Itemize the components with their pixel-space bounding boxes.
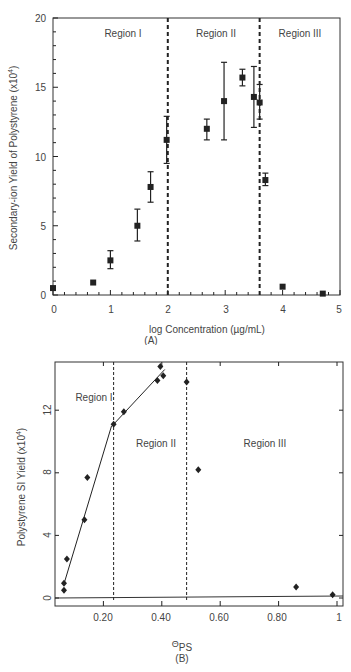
region-label-2: Region II <box>136 438 176 449</box>
y-axis-label-text: Polystyrene SI Yield (x10 <box>16 435 27 547</box>
y-tick-label: 20 <box>35 13 47 24</box>
data-point-diamond <box>84 474 90 481</box>
data-point-square <box>262 177 268 183</box>
x-tick-label: 0 <box>51 304 57 315</box>
region-label-3: Region III <box>244 438 287 449</box>
region-boundaries-b <box>114 362 187 600</box>
data-point-diamond <box>121 408 127 415</box>
region-label-2: Region II <box>196 28 236 39</box>
x-axis-label: ΘPS <box>172 639 193 653</box>
data-point-square <box>148 184 154 190</box>
y-tick-label: 8 <box>42 469 53 475</box>
y-axis-label-end: ) <box>8 66 19 69</box>
data-point-diamond <box>330 591 336 598</box>
region-label-3: Region III <box>279 28 322 39</box>
data-points-a <box>50 62 326 296</box>
fit-line <box>64 426 112 584</box>
axis-ticks-a <box>53 18 340 295</box>
data-point-square <box>251 94 257 100</box>
data-point-square <box>257 99 263 105</box>
data-point-diamond <box>61 580 67 587</box>
data-point-square <box>50 285 56 291</box>
data-point-square <box>107 257 113 263</box>
x-axis-label-sub: PS <box>179 642 193 653</box>
data-point-square <box>221 98 227 104</box>
y-tick-label: 10 <box>35 152 47 163</box>
data-point-square <box>320 291 326 297</box>
region-boundaries-a <box>168 18 260 295</box>
y-axis-label: Polystyrene SI Yield (x104) <box>15 428 27 546</box>
plot-frame-a <box>53 18 340 295</box>
y-axis-label-end: ) <box>16 428 27 431</box>
x-tick-label: 1 <box>336 612 342 623</box>
data-point-diamond <box>61 587 67 594</box>
panel-label: (A) <box>144 335 157 345</box>
data-point-square <box>164 137 170 143</box>
data-point-square <box>204 126 210 132</box>
y-tick-label: 5 <box>40 221 46 232</box>
zero-baseline-b <box>55 596 343 598</box>
x-axis-label: log Concentration (µg/mL) <box>149 324 265 335</box>
data-point-square <box>280 284 286 290</box>
y-axis-label-text: Secondary-ion Yield of Polystyrene (x10 <box>8 73 19 251</box>
x-tick-label: 2 <box>165 304 171 315</box>
data-point-diamond <box>154 377 160 384</box>
x-tick-label: 0.40 <box>151 612 171 623</box>
x-tick-label: 0.20 <box>93 612 113 623</box>
x-tick-label: 4 <box>280 304 286 315</box>
y-tick-label: 0 <box>42 595 53 601</box>
y-tick-label: 15 <box>35 82 47 93</box>
data-point-diamond <box>184 379 190 386</box>
x-tick-label: 3 <box>223 304 229 315</box>
y-tick-label: 4 <box>42 532 53 538</box>
data-point-square <box>134 223 140 229</box>
data-point-square <box>239 75 245 81</box>
region-label-1: Region I <box>75 392 112 403</box>
y-tick-label: 12 <box>42 404 53 416</box>
data-point-square <box>90 280 96 286</box>
data-point-diamond <box>157 363 163 370</box>
chart-a: 0 5 10 15 20 0 1 2 3 4 5 Region I Region… <box>0 0 351 345</box>
x-axis-label-theta: Θ <box>172 639 179 649</box>
data-point-diamond <box>64 555 70 562</box>
region-label-1: Region I <box>104 28 141 39</box>
x-tick-label: 0.80 <box>267 612 287 623</box>
data-point-diamond <box>293 584 299 591</box>
y-axis-label: Secondary-ion Yield of Polystyrene (x104… <box>7 66 19 251</box>
x-tick-label: 5 <box>336 304 342 315</box>
chart-b: 0 4 8 12 0.20 0.40 0.60 0.80 1 Region I … <box>0 345 351 672</box>
x-tick-label: 1 <box>108 304 114 315</box>
data-point-diamond <box>195 466 201 473</box>
panel-label: (B) <box>175 653 188 664</box>
y-tick-label: 0 <box>40 290 46 301</box>
x-tick-label: 0.60 <box>209 612 229 623</box>
